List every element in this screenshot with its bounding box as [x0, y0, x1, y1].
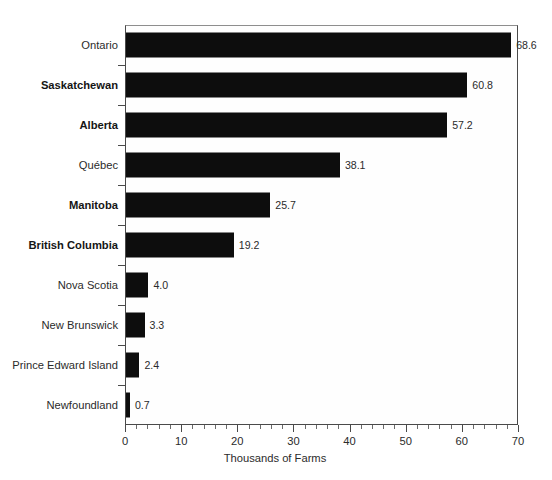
bar — [126, 73, 467, 98]
bar-chart: Ontario68.6Saskatchewan60.8Alberta57.2Qu… — [0, 0, 552, 480]
x-axis-minor-tick — [338, 425, 339, 429]
x-axis-minor-tick — [496, 425, 497, 429]
category-label: Québec — [79, 159, 118, 171]
bar-row: Alberta57.2 — [0, 105, 552, 145]
category-label: Newfoundland — [46, 399, 118, 411]
x-axis-minor-tick — [136, 425, 137, 429]
bar-value-label: 4.0 — [153, 279, 168, 291]
bar — [126, 33, 511, 58]
bar-value-label: 60.8 — [472, 79, 493, 91]
x-axis-tick-label: 20 — [231, 435, 243, 447]
category-label: Saskatchewan — [41, 79, 118, 91]
x-axis-minor-tick — [361, 425, 362, 429]
bar — [126, 353, 139, 378]
x-axis-major-tick — [293, 425, 294, 432]
x-axis-minor-tick — [282, 425, 283, 429]
category-label: Alberta — [79, 119, 118, 131]
x-axis-minor-tick — [383, 425, 384, 429]
bar — [126, 233, 234, 258]
x-axis-major-tick — [125, 425, 126, 432]
category-label: Prince Edward Island — [12, 359, 118, 371]
bar-value-label: 57.2 — [452, 119, 473, 131]
x-axis-minor-tick — [507, 425, 508, 429]
bar — [126, 393, 130, 418]
x-axis-tick-label: 50 — [399, 435, 411, 447]
bar-value-label: 25.7 — [275, 199, 296, 211]
x-axis-tick-label: 30 — [287, 435, 299, 447]
x-axis-minor-tick — [147, 425, 148, 429]
x-axis-tick-label: 70 — [512, 435, 524, 447]
x-axis-minor-tick — [394, 425, 395, 429]
x-axis-minor-tick — [204, 425, 205, 429]
x-axis-minor-tick — [451, 425, 452, 429]
x-axis: 010203040506070 — [125, 425, 518, 426]
x-axis-major-tick — [462, 425, 463, 432]
x-axis-tick-label: 10 — [175, 435, 187, 447]
bar-row: Saskatchewan60.8 — [0, 65, 552, 105]
bar-row: New Brunswick3.3 — [0, 305, 552, 345]
x-axis-major-tick — [350, 425, 351, 432]
bar-row: Prince Edward Island2.4 — [0, 345, 552, 385]
x-axis-minor-tick — [260, 425, 261, 429]
x-axis-tick-label: 40 — [343, 435, 355, 447]
bar-value-label: 3.3 — [150, 319, 165, 331]
bar — [126, 273, 148, 298]
bar — [126, 193, 270, 218]
x-axis-minor-tick — [159, 425, 160, 429]
x-axis-minor-tick — [316, 425, 317, 429]
bar-value-label: 19.2 — [239, 239, 260, 251]
bar — [126, 153, 340, 178]
x-axis-minor-tick — [170, 425, 171, 429]
x-axis-title-text: Thousands of Farms — [224, 452, 327, 464]
bar-row: Newfoundland0.7 — [0, 385, 552, 425]
category-label: Manitoba — [69, 199, 118, 211]
x-axis-minor-tick — [249, 425, 250, 429]
bar-row: Québec38.1 — [0, 145, 552, 185]
bar-rows: Ontario68.6Saskatchewan60.8Alberta57.2Qu… — [0, 25, 552, 425]
x-axis-minor-tick — [417, 425, 418, 429]
bar-value-label: 0.7 — [135, 399, 150, 411]
x-axis-minor-tick — [226, 425, 227, 429]
category-label: New Brunswick — [42, 319, 118, 331]
x-axis-major-tick — [237, 425, 238, 432]
x-axis-major-tick — [406, 425, 407, 432]
x-axis-minor-tick — [305, 425, 306, 429]
bar-value-label: 2.4 — [144, 359, 159, 371]
x-axis-tick-label: 0 — [122, 435, 128, 447]
x-axis-minor-tick — [192, 425, 193, 429]
x-axis-minor-tick — [327, 425, 328, 429]
bar-row: Ontario68.6 — [0, 25, 552, 65]
x-axis-minor-tick — [439, 425, 440, 429]
x-axis-major-tick — [181, 425, 182, 432]
bar — [126, 113, 447, 138]
x-axis-minor-tick — [473, 425, 474, 429]
category-label: Nova Scotia — [58, 279, 118, 291]
x-axis-minor-tick — [428, 425, 429, 429]
bar-row: Manitoba25.7 — [0, 185, 552, 225]
bar-row: Nova Scotia4.0 — [0, 265, 552, 305]
x-axis-title: Thousands of Farms — [0, 452, 552, 464]
category-label: British Columbia — [28, 239, 118, 251]
category-label: Ontario — [81, 39, 118, 51]
x-axis-major-tick — [518, 425, 519, 432]
bar-value-label: 38.1 — [345, 159, 366, 171]
bar-value-label: 68.6 — [516, 39, 537, 51]
x-axis-minor-tick — [484, 425, 485, 429]
bar — [126, 313, 145, 338]
x-axis-tick-label: 60 — [456, 435, 468, 447]
bar-row: British Columbia19.2 — [0, 225, 552, 265]
x-axis-minor-tick — [372, 425, 373, 429]
x-axis-minor-tick — [271, 425, 272, 429]
x-axis-minor-tick — [215, 425, 216, 429]
